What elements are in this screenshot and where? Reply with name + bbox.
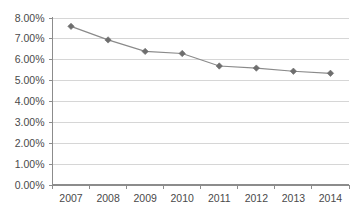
y-axis-tick-label: 1.00% [15, 158, 45, 170]
y-axis-tick-label: 4.00% [15, 95, 45, 107]
data-point-marker [142, 48, 148, 54]
data-point-marker [68, 23, 74, 29]
data-point-marker [253, 65, 259, 71]
y-axis-tick-label: 2.00% [15, 137, 45, 149]
y-axis-tick-label: 7.00% [15, 32, 45, 44]
y-axis-tick-label: 8.00% [15, 12, 45, 24]
y-axis-tick-label: 3.00% [15, 116, 45, 128]
chart-canvas: 0.00%1.00%2.00%3.00%4.00%5.00%6.00%7.00%… [0, 0, 359, 213]
line-chart: 0.00%1.00%2.00%3.00%4.00%5.00%6.00%7.00%… [0, 0, 359, 213]
x-axis-tick-label: 2014 [319, 192, 343, 204]
x-axis-tick-label: 2008 [96, 192, 120, 204]
x-axis-tick-labels: 20072008200920102011201220132014 [59, 192, 342, 204]
x-axis-tick-label: 2012 [245, 192, 269, 204]
series-line-path [71, 26, 330, 73]
data-point-marker [179, 50, 185, 56]
x-axis-tick-label: 2010 [171, 192, 195, 204]
series-markers-group [68, 23, 334, 76]
x-axis-tick-label: 2013 [282, 192, 306, 204]
x-axis-tick-label: 2009 [133, 192, 157, 204]
x-axis-tick-label: 2007 [59, 192, 83, 204]
data-point-marker [327, 70, 333, 76]
y-axis-tick-label: 6.00% [15, 53, 45, 65]
data-point-marker [290, 68, 296, 74]
x-axis-tick-label: 2011 [208, 192, 231, 204]
data-point-marker [105, 37, 111, 43]
gridlines-group [53, 18, 350, 185]
x-tick-marks-group [53, 185, 350, 189]
y-axis-tick-label: 0.00% [15, 179, 45, 191]
y-axis-tick-labels: 0.00%1.00%2.00%3.00%4.00%5.00%6.00%7.00%… [15, 12, 45, 191]
data-point-marker [216, 63, 222, 69]
y-axis-tick-label: 5.00% [15, 74, 45, 86]
